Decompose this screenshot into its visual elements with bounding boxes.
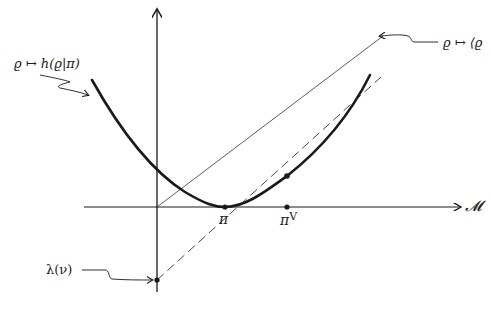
lambda-label-arrow xyxy=(82,270,152,280)
curve-label-arrow xyxy=(40,75,88,95)
tangent-point xyxy=(284,173,290,179)
lambda-label: λ(ν) xyxy=(46,263,72,276)
diagram-canvas xyxy=(0,0,491,312)
pi-label: π xyxy=(219,212,228,226)
axis-label: 𝓜 xyxy=(465,199,482,214)
tangent-line xyxy=(157,77,381,280)
lambda-v-point xyxy=(154,277,159,282)
pi-v-label: πV xyxy=(280,209,297,223)
line-label: ϱ ↦ ⟨ϱ xyxy=(443,36,483,49)
line-label-arrow xyxy=(380,35,438,42)
line-through-origin xyxy=(157,36,383,207)
pi-v-superscript: V xyxy=(289,210,297,223)
pi-v-base: π xyxy=(280,212,289,228)
pi-point xyxy=(222,204,227,209)
convex-curve xyxy=(92,75,370,207)
curve-label: ϱ ↦ h(ϱ|π) xyxy=(14,57,80,70)
